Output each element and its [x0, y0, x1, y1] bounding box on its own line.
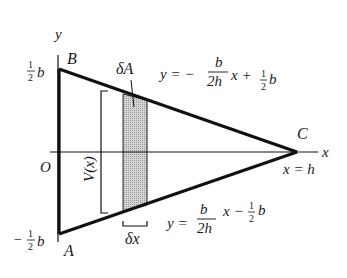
svg-text:2: 2 — [28, 241, 33, 252]
svg-text:−: − — [14, 232, 22, 247]
vertex-c-label: C — [297, 125, 308, 142]
tick-label-bottom: − 1 2 b — [14, 228, 45, 252]
triangle-diagram: y x O B A C 1 2 b − 1 2 b y = − b 2h x +… — [0, 0, 347, 278]
y-axis-label: y — [53, 26, 62, 42]
svg-text:y = −: y = − — [158, 66, 194, 82]
svg-text:y =: y = — [165, 215, 188, 231]
svg-text:2: 2 — [261, 81, 266, 92]
svg-text:b: b — [258, 202, 266, 218]
svg-text:1: 1 — [261, 68, 266, 79]
svg-text:1: 1 — [28, 59, 33, 70]
svg-text:2: 2 — [28, 72, 33, 83]
lower-line-equation: y = b 2h x − 1 2 b — [165, 200, 266, 236]
vertex-b-label: B — [67, 50, 77, 67]
svg-text:b: b — [200, 201, 208, 217]
vertex-a-label: A — [63, 242, 74, 259]
svg-text:b: b — [37, 233, 45, 249]
svg-text:x +: x + — [230, 67, 252, 83]
origin-label: O — [40, 159, 51, 175]
svg-text:2: 2 — [249, 213, 254, 224]
delta-x-label: δx — [125, 230, 140, 247]
tick-label-top: 1 2 b — [27, 59, 45, 83]
dx-bracket — [123, 221, 147, 226]
svg-text:2h: 2h — [207, 73, 222, 89]
apex-condition-label: x = h — [282, 161, 315, 177]
svg-text:b: b — [215, 54, 223, 70]
upper-line-equation: y = − b 2h x + 1 2 b — [158, 54, 277, 92]
svg-text:2h: 2h — [197, 220, 212, 236]
svg-text:1: 1 — [249, 200, 254, 211]
x-axis-label: x — [321, 144, 329, 160]
svg-text:1: 1 — [28, 228, 33, 239]
svg-text:b: b — [269, 71, 277, 87]
svg-text:b: b — [37, 64, 45, 80]
svg-text:x −: x − — [222, 203, 244, 219]
delta-a-label: δA — [116, 60, 133, 77]
height-function-label: V(x) — [81, 156, 98, 182]
